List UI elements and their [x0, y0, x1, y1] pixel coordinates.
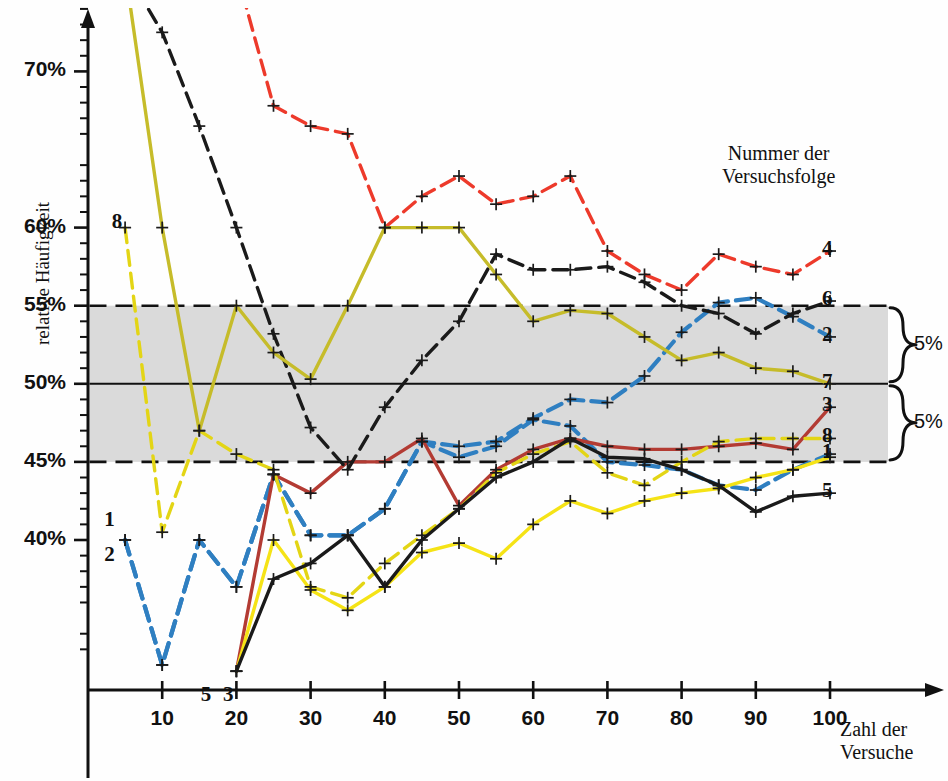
series-line-5b — [236, 438, 830, 671]
data-marker — [564, 264, 576, 276]
data-marker — [268, 573, 280, 585]
x-tick-label: 80 — [642, 706, 722, 730]
legend-title-line2: Versuchsfolge — [722, 165, 835, 188]
y-tick-label: 70% — [0, 57, 66, 81]
bracket-1 — [890, 386, 916, 460]
data-marker — [601, 261, 613, 273]
x-tick-label: 70 — [567, 706, 647, 730]
data-marker — [230, 222, 242, 234]
data-marker — [230, 665, 242, 677]
y-tick-label: 55% — [0, 292, 66, 316]
data-marker — [416, 222, 428, 234]
x-tick-label: 40 — [345, 706, 425, 730]
data-marker — [156, 26, 168, 38]
data-marker — [453, 537, 465, 549]
x-tick-label: 60 — [493, 706, 573, 730]
bracket-0 — [890, 308, 916, 382]
chart-canvas — [0, 0, 948, 781]
series-start-label-3: 3 — [223, 682, 234, 707]
y-tick-label: 50% — [0, 370, 66, 394]
data-marker — [750, 261, 762, 273]
series-end-label-5: 5 — [822, 478, 833, 503]
y-tick-label: 45% — [0, 448, 66, 472]
series-start-label-1: 1 — [104, 507, 115, 532]
data-marker — [193, 120, 205, 132]
x-tick-label: 100 — [790, 706, 870, 730]
x-tick-label: 30 — [271, 706, 351, 730]
x-tick-label: 20 — [196, 706, 276, 730]
data-marker — [750, 472, 762, 484]
bracket-label-0: 5% — [914, 332, 943, 355]
data-marker — [527, 264, 539, 276]
y-tick-label: 60% — [0, 214, 66, 238]
series-end-label-6: 6 — [822, 286, 833, 311]
data-marker — [601, 507, 613, 519]
series-end-label-7: 7 — [822, 369, 833, 394]
data-marker — [156, 526, 168, 538]
data-marker — [676, 487, 688, 499]
data-marker — [639, 479, 651, 491]
x-tick-label: 50 — [419, 706, 499, 730]
data-marker — [527, 190, 539, 202]
data-marker — [156, 222, 168, 234]
data-marker — [156, 659, 168, 671]
series-start-label-2: 2 — [104, 542, 115, 567]
x-tick-label: 90 — [716, 706, 796, 730]
chart-figure: relative Häufigkeit Zahl der Versuche Nu… — [0, 0, 948, 781]
bracket-label-1: 5% — [914, 410, 943, 433]
y-tick-label: 40% — [0, 526, 66, 550]
series-end-label-2: 2 — [822, 322, 833, 347]
series-end-label-1: 1 — [822, 439, 833, 464]
x-axis-label-line2: Versuche — [840, 741, 913, 763]
series-end-label-3: 3 — [822, 392, 833, 417]
data-marker — [787, 490, 799, 502]
data-marker — [639, 495, 651, 507]
legend-title-line1: Nummer der — [722, 142, 835, 165]
data-marker — [119, 534, 131, 546]
x-tick-label: 10 — [122, 706, 202, 730]
series-start-label-5: 5 — [201, 682, 212, 707]
series-start-label-8: 8 — [112, 209, 123, 234]
x-axis-arrow-icon — [925, 683, 944, 697]
series-end-label-4: 4 — [822, 236, 833, 261]
legend-title: Nummer der Versuchsfolge — [722, 142, 835, 188]
data-marker — [342, 128, 354, 140]
